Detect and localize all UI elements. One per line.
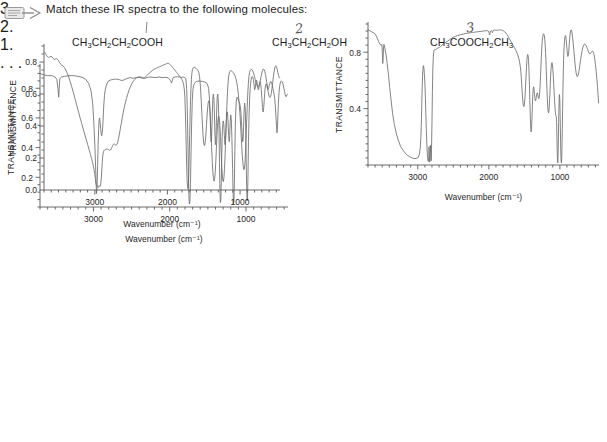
spectrum-3-ytick-0.6: 0.6 <box>25 89 37 99</box>
spectrum-3-xtick-2000: 2000 <box>158 197 177 207</box>
spectrum-3-ytick-0.0: 0.0 <box>25 185 37 195</box>
spectrum-2-xaxis-label: Wavenumber (cm⁻¹) <box>445 192 523 202</box>
spectrum-1-xaxis-label: Wavenumber (cm⁻¹) <box>125 234 203 244</box>
spectrum-3-svg: 3000200010000.00.20.40.60.8Wavenumber (c… <box>0 36 290 230</box>
spectrum-2-svg: 3000200010000.40.8Wavenumber (cm⁻¹)TRANS… <box>330 18 607 203</box>
spectrum-2-trace <box>368 30 599 163</box>
spectrum-3-ytick-0.8: 0.8 <box>25 57 37 67</box>
spectrum-3-yaxis-label: TRANSMITTANCE <box>8 80 18 157</box>
spectrum-3-ytick-0.2: 0.2 <box>25 153 37 163</box>
spectrum-3-xtick-1000: 1000 <box>231 197 250 207</box>
spectrum-3-trace <box>44 52 280 189</box>
arrow-pointer-icon <box>4 5 42 21</box>
spectrum-3-xtick-3000: 3000 <box>85 197 104 207</box>
ir-spectrum-chart-3: 3000200010000.00.20.40.60.8Wavenumber (c… <box>0 36 290 234</box>
spectrum-3-ytick-0.4: 0.4 <box>25 121 37 131</box>
spectrum-2-xtick-2000: 2000 <box>479 172 498 182</box>
spectrum-2-xtick-3000: 3000 <box>408 172 427 182</box>
spectrum-2-ytick-0.8: 0.8 <box>349 48 361 58</box>
spectrum-3-xaxis-label: Wavenumber (cm⁻¹) <box>123 219 201 229</box>
spectrum-2-xtick-1000: 1000 <box>550 172 569 182</box>
spectrum-2-ytick-0.4: 0.4 <box>349 104 361 114</box>
instruction-text: Match these IR spectra to the following … <box>46 3 307 15</box>
ir-spectrum-chart-2: 3000200010000.40.8Wavenumber (cm⁻¹)TRANS… <box>330 18 607 207</box>
spectrum-2-yaxis-label: TRANSMITTANCE <box>334 56 344 133</box>
